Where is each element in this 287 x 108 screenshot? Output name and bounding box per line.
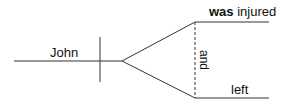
main-verb: injured: [234, 4, 277, 19]
conjunction-label: and: [197, 50, 211, 70]
lower-predicate-label: left: [231, 82, 249, 97]
sentence-diagram: John was injured left and: [0, 0, 287, 108]
lower-fork-line: [122, 61, 195, 98]
auxiliary-verb: was: [208, 4, 234, 19]
upper-fork-line: [122, 22, 195, 61]
subject-label: John: [50, 45, 78, 60]
upper-predicate-label: was injured: [208, 4, 276, 19]
